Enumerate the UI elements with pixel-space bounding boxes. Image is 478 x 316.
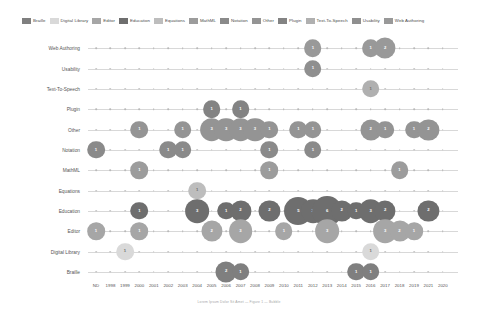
bubble-value-label: 1: [413, 229, 415, 233]
bubble-point[interactable]: 3: [229, 219, 253, 243]
grid-tick-dot: [384, 190, 386, 192]
bubble-value-label: 1: [355, 209, 357, 213]
bubble-point[interactable]: 2: [375, 200, 396, 221]
legend-item[interactable]: Equations: [154, 18, 185, 24]
bubble-point[interactable]: 1: [275, 222, 293, 240]
bubble-point[interactable]: 1: [362, 263, 380, 281]
grid-tick-dot: [442, 68, 444, 70]
row-gridline: [88, 272, 458, 273]
grid-tick-dot: [167, 129, 169, 131]
bubble-point[interactable]: 2: [259, 200, 280, 221]
grid-tick-dot: [95, 251, 97, 253]
grid-tick-dot: [240, 149, 242, 151]
bubble-point[interactable]: 1: [174, 121, 192, 139]
bubble-point[interactable]: 2: [230, 200, 251, 221]
grid-tick-dot: [326, 88, 328, 90]
bubble-point[interactable]: 1: [174, 141, 192, 159]
legend-item[interactable]: Notation: [220, 18, 248, 24]
legend-item[interactable]: Digital Library: [50, 18, 89, 24]
grid-tick-dot: [298, 68, 300, 70]
grid-tick-dot: [110, 230, 112, 232]
x-axis-label: 2012: [308, 283, 318, 288]
legend-swatch-icon: [252, 18, 261, 24]
legend-item[interactable]: Other: [252, 18, 274, 24]
bubble-value-label: 1: [384, 127, 386, 131]
bubble-point[interactable]: 1: [261, 121, 279, 139]
bubble-point[interactable]: 1: [116, 243, 134, 261]
bubble-value-label: 1: [138, 127, 140, 131]
grid-tick-dot: [355, 251, 357, 253]
grid-tick-dot: [355, 108, 357, 110]
bubble-value-label: 3: [225, 127, 227, 131]
grid-tick-dot: [211, 271, 213, 273]
bubble-point[interactable]: 1: [261, 141, 279, 159]
bubble-point[interactable]: 2: [201, 221, 222, 242]
bubble-point[interactable]: 2: [418, 200, 439, 221]
grid-tick-dot: [254, 210, 256, 212]
bubble-value-label: 1: [369, 249, 371, 253]
bubble-point[interactable]: 1: [391, 161, 409, 179]
bubble-point[interactable]: 2: [418, 119, 439, 140]
grid-tick-dot: [428, 251, 430, 253]
legend-item[interactable]: Braille: [22, 18, 46, 24]
bubble-point[interactable]: 2: [375, 38, 396, 59]
grid-tick-dot: [298, 47, 300, 49]
bubble-point[interactable]: 1: [232, 100, 250, 118]
bubble-point[interactable]: 3: [315, 219, 339, 243]
grid-tick-dot: [269, 88, 271, 90]
legend-item[interactable]: Text-To-Speech: [306, 18, 348, 24]
legend-item[interactable]: Education: [119, 18, 150, 24]
grid-tick-dot: [95, 169, 97, 171]
bubble-point[interactable]: 1: [304, 121, 322, 139]
legend-item[interactable]: Plugin: [278, 18, 302, 24]
grid-tick-dot: [153, 190, 155, 192]
grid-tick-dot: [341, 129, 343, 131]
grid-tick-dot: [110, 108, 112, 110]
bubble-point[interactable]: 1: [362, 243, 380, 261]
grid-tick-dot: [298, 108, 300, 110]
grid-tick-dot: [240, 88, 242, 90]
grid-tick-dot: [124, 129, 126, 131]
grid-tick-dot: [254, 108, 256, 110]
bubble-point[interactable]: 1: [304, 39, 322, 57]
grid-tick-dot: [196, 68, 198, 70]
grid-tick-dot: [225, 251, 227, 253]
grid-tick-dot: [110, 271, 112, 273]
bubble-point[interactable]: 1: [405, 222, 423, 240]
legend-item[interactable]: MathML: [189, 18, 216, 24]
bubble-point[interactable]: 1: [203, 100, 221, 118]
grid-tick-dot: [254, 88, 256, 90]
grid-tick-dot: [283, 129, 285, 131]
grid-tick-dot: [167, 169, 169, 171]
x-axis-label: 2016: [366, 283, 376, 288]
bubble-point[interactable]: 1: [131, 161, 149, 179]
bubble-point[interactable]: 1: [362, 80, 380, 98]
bubble-point[interactable]: 3: [185, 199, 209, 223]
grid-tick-dot: [413, 169, 415, 171]
bubble-point[interactable]: 1: [232, 263, 250, 281]
bubble-point[interactable]: 1: [131, 202, 149, 220]
bubble-value-label: 1: [239, 107, 241, 111]
grid-tick-dot: [399, 210, 401, 212]
bubble-point[interactable]: 1: [304, 141, 322, 159]
bubble-value-label: 1: [312, 66, 314, 70]
bubble-point[interactable]: 1: [188, 182, 206, 200]
legend-item[interactable]: Editor: [92, 18, 115, 24]
grid-tick-dot: [341, 190, 343, 192]
grid-tick-dot: [167, 88, 169, 90]
bubble-point[interactable]: 1: [376, 121, 394, 139]
bubble-point[interactable]: 1: [304, 60, 322, 78]
bubble-point[interactable]: 1: [131, 222, 149, 240]
y-axis-label: Plugin: [67, 107, 80, 112]
grid-tick-dot: [196, 271, 198, 273]
bubble-point[interactable]: 1: [261, 161, 279, 179]
bubble-point[interactable]: 1: [131, 121, 149, 139]
bubble-point[interactable]: 1: [87, 141, 105, 159]
bubble-point[interactable]: 1: [87, 222, 105, 240]
legend-item[interactable]: Web Authoring: [384, 18, 424, 24]
legend-item[interactable]: Usability: [352, 18, 380, 24]
grid-tick-dot: [240, 47, 242, 49]
grid-tick-dot: [139, 149, 141, 151]
grid-tick-dot: [355, 230, 357, 232]
grid-tick-dot: [413, 190, 415, 192]
